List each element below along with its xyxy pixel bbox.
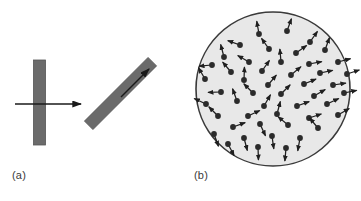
dipole-dot: [211, 131, 217, 137]
dipole-dot: [241, 77, 247, 83]
dipole-dot: [209, 62, 215, 68]
dipole-dot: [344, 71, 350, 77]
dipole-dot: [203, 101, 209, 107]
dipole-dot: [324, 101, 330, 107]
dipole-dot: [218, 89, 224, 95]
dipole-dot: [241, 135, 247, 141]
dipole-dot: [283, 145, 289, 151]
dipole-dot: [245, 113, 251, 119]
dipole-dot: [335, 59, 341, 65]
dipole-dot: [274, 111, 280, 117]
dipole-dot: [215, 113, 221, 119]
dipole-dot: [317, 70, 323, 76]
figure-canvas: [0, 0, 361, 201]
dipole-dot: [311, 93, 317, 99]
dipole-dot: [285, 122, 291, 128]
dipole-dot: [301, 81, 307, 87]
dipole-dot: [246, 59, 252, 65]
dipole-dot: [202, 76, 208, 82]
dipole-dot: [341, 90, 347, 96]
dipole-dot: [228, 69, 234, 75]
dipole-dot: [259, 68, 265, 74]
dipole-dot: [250, 90, 256, 96]
dipole-dot: [322, 47, 328, 53]
dipole-dot: [278, 59, 284, 65]
dipole-dot: [294, 103, 300, 109]
dipole-dot: [237, 42, 243, 48]
dipole-dot: [256, 31, 262, 37]
dipole-dot: [261, 103, 267, 109]
dipole-dot: [288, 72, 294, 78]
dipole-dot: [265, 82, 271, 88]
dipole-dot: [278, 91, 284, 97]
dipole-dot: [284, 28, 290, 34]
dipole-dot: [255, 144, 261, 150]
dipole-dot: [297, 135, 303, 141]
dipole-dot: [307, 39, 313, 45]
dipole-dot: [266, 46, 272, 52]
dipole-dot: [315, 125, 321, 131]
dipole-dot: [221, 54, 227, 60]
dipole-dot: [269, 133, 275, 139]
dipole-dot: [230, 124, 236, 130]
dipole-dot: [293, 50, 299, 56]
panel-b-label: (b): [194, 169, 208, 181]
dipole-dot: [335, 112, 341, 118]
dipole-dot: [306, 61, 312, 67]
dipole-dot: [330, 82, 336, 88]
dipole-dot: [257, 121, 263, 127]
vertical-bar: [34, 60, 46, 145]
dipole-dot: [234, 98, 240, 104]
panel-a-label: (a): [12, 169, 26, 181]
dipole-dot: [225, 141, 231, 147]
